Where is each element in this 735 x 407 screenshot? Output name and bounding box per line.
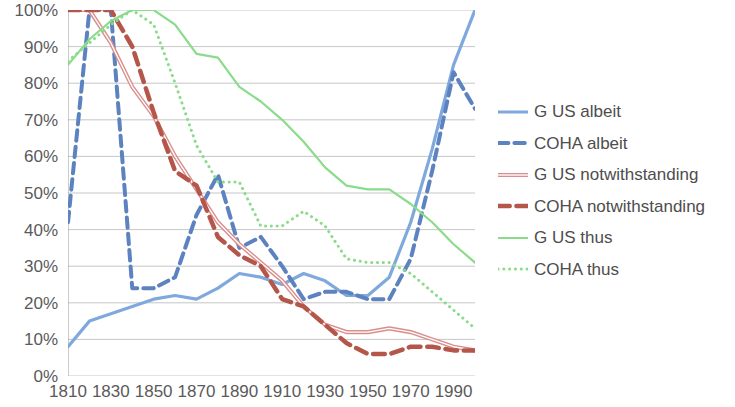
- legend-label: COHA thus: [534, 261, 619, 278]
- legend-item[interactable]: COHA thus: [498, 254, 733, 286]
- legend-label: COHA albeit: [534, 135, 628, 152]
- legend-swatch-icon: [498, 136, 528, 150]
- y-axis-tick-label: 20%: [24, 294, 58, 311]
- y-axis-tick-label: 70%: [24, 111, 58, 128]
- x-axis-tick-label: 1830: [92, 383, 130, 400]
- y-axis-tick-label: 100%: [15, 2, 58, 19]
- legend-label: G US thus: [534, 229, 612, 246]
- chart-legend: G US albeitCOHA albeitG US notwithstandi…: [498, 96, 733, 285]
- legend-swatch-icon: [498, 105, 528, 119]
- legend-item[interactable]: COHA notwithstanding: [498, 191, 733, 223]
- plot-svg: [68, 10, 475, 376]
- x-axis-tick-label: 1910: [263, 383, 301, 400]
- x-axis-tick-label: 1970: [392, 383, 430, 400]
- y-axis-tick-label: 80%: [24, 75, 58, 92]
- x-axis-tick-label: 1850: [135, 383, 173, 400]
- legend-item[interactable]: G US notwithstanding: [498, 159, 733, 191]
- legend-item[interactable]: COHA albeit: [498, 128, 733, 160]
- legend-swatch-icon: [498, 262, 528, 276]
- series-line: [68, 10, 475, 347]
- x-axis-tick-label: 1990: [435, 383, 473, 400]
- x-axis-tick-label: 1810: [49, 383, 87, 400]
- x-axis-tick-label: 1870: [178, 383, 216, 400]
- legend-swatch-icon: [498, 231, 528, 245]
- x-axis-tick-label: 1890: [220, 383, 258, 400]
- legend-swatch-icon: [498, 168, 528, 182]
- y-axis-tick-label: 60%: [24, 148, 58, 165]
- legend-label: G US albeit: [534, 103, 621, 120]
- x-axis-tick-label: 1950: [349, 383, 387, 400]
- series-line: [68, 10, 475, 299]
- y-axis-tick-label: 40%: [24, 221, 58, 238]
- series-line: [68, 10, 475, 350]
- plot-area: [68, 10, 475, 376]
- x-axis-tick-label: 1930: [306, 383, 344, 400]
- y-axis-tick-label: 10%: [24, 331, 58, 348]
- x-axis: 1810183018501870189019101930195019701990: [0, 378, 735, 407]
- legend-item[interactable]: G US albeit: [498, 96, 733, 128]
- y-axis-tick-label: 50%: [24, 185, 58, 202]
- legend-swatch-icon: [498, 199, 528, 213]
- legend-label: COHA notwithstanding: [534, 198, 705, 215]
- y-axis-tick-label: 30%: [24, 258, 58, 275]
- y-axis: 0%10%20%30%40%50%60%70%80%90%100%: [0, 0, 58, 407]
- legend-item[interactable]: G US thus: [498, 222, 733, 254]
- line-chart: 0%10%20%30%40%50%60%70%80%90%100% 181018…: [0, 0, 735, 407]
- legend-label: G US notwithstanding: [534, 166, 698, 183]
- series-line: [68, 10, 475, 350]
- y-axis-tick-label: 90%: [24, 38, 58, 55]
